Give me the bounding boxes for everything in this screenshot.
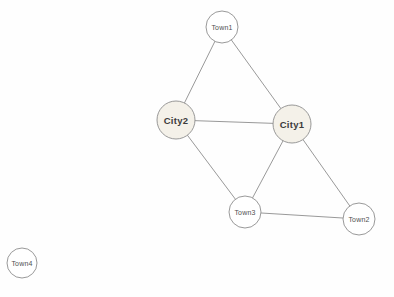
node-town1: Town1 bbox=[206, 11, 238, 43]
node-town3: Town3 bbox=[229, 196, 261, 228]
node-city2: City2 bbox=[157, 101, 195, 139]
graph-plot-canvas: Town1City2City1Town3Town2Town4 bbox=[0, 0, 394, 297]
node-town2-label: Town2 bbox=[348, 216, 369, 223]
node-town1-label: Town1 bbox=[211, 24, 232, 31]
node-town2: Town2 bbox=[343, 203, 375, 235]
node-city1: City1 bbox=[273, 105, 311, 143]
node-city2-label: City2 bbox=[164, 115, 189, 126]
edge-town3-town2 bbox=[245, 212, 359, 219]
node-city1-label: City1 bbox=[280, 119, 305, 130]
node-town4: Town4 bbox=[7, 248, 37, 278]
network-graph: Town1City2City1Town3Town2Town4 bbox=[0, 0, 394, 297]
node-town3-label: Town3 bbox=[234, 209, 255, 216]
node-town4-label: Town4 bbox=[11, 260, 32, 267]
